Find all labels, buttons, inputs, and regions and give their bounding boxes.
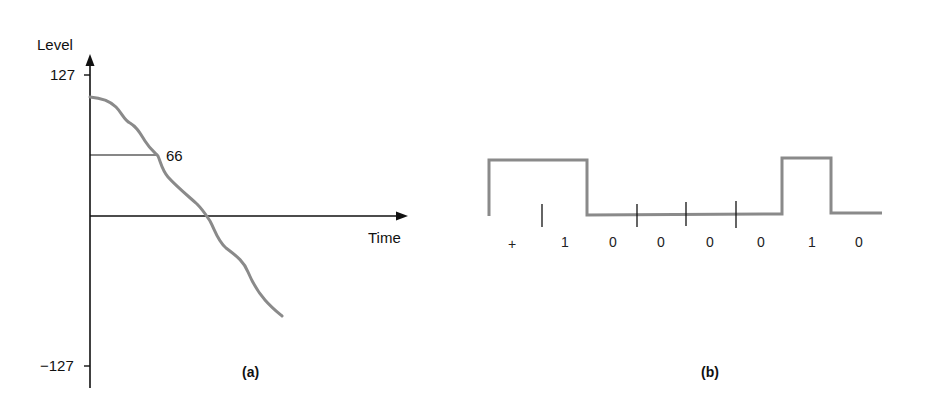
y-axis-arrow-icon <box>86 54 95 66</box>
sample-value-label: 66 <box>166 148 183 163</box>
bit-label-1: 1 <box>561 235 569 249</box>
bit-label-3: 0 <box>657 235 665 249</box>
bit-label-2: 0 <box>609 235 617 249</box>
y-axis-label: Level <box>37 37 73 52</box>
bit-label-7: 0 <box>855 235 863 249</box>
x-axis-label: Time <box>368 230 401 245</box>
y-min-label: −127 <box>40 358 74 373</box>
bit-label-6: 1 <box>808 235 816 249</box>
diagram-canvas <box>0 0 933 409</box>
caption-b: (b) <box>701 365 719 379</box>
bit-label-5: 0 <box>757 235 765 249</box>
analog-signal-curve <box>90 97 282 316</box>
bit-label-4: 0 <box>706 235 714 249</box>
panel-a-axes <box>84 54 408 388</box>
caption-a: (a) <box>242 365 259 379</box>
y-max-label: 127 <box>50 67 75 82</box>
bit-label-0: + <box>508 237 516 251</box>
x-axis-arrow-icon <box>396 212 408 221</box>
